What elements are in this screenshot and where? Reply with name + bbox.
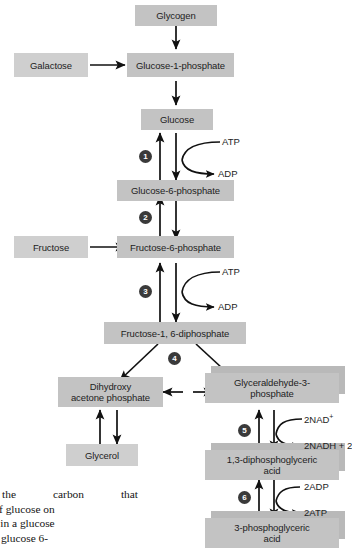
step-circle-2[interactable]: 2 bbox=[139, 211, 152, 224]
step-circle-3[interactable]: 3 bbox=[139, 285, 152, 298]
node-glucose-6-phosphate[interactable]: Glucose-6-phosphate bbox=[117, 180, 234, 201]
glycolysis-diagram: Glycogen Galactose Glucose-1-phosphate G… bbox=[0, 0, 352, 551]
cofactor-adp-2: ADP bbox=[218, 301, 238, 312]
node-fructose-1-6-diphosphate[interactable]: Fructose-1, 6-diphosphate bbox=[104, 322, 246, 344]
node-1-3-diphosphoglyceric-acid[interactable]: 1,3-diphosphoglyceric acid bbox=[205, 450, 339, 480]
caption-line-2: agram of glucose on bbox=[0, 502, 138, 517]
nad-superscript: + bbox=[329, 413, 333, 420]
cofactor-atp-1: ATP bbox=[222, 136, 240, 147]
cofactor-adp-3: 2ADP bbox=[304, 481, 329, 492]
cofactor-adp-1: ADP bbox=[218, 168, 238, 179]
node-fructose-6-phosphate[interactable]: Fructose-6-phosphate bbox=[117, 236, 234, 258]
caption-line-3: carbons in a glucose bbox=[0, 516, 138, 531]
cofactor-atp-3: 2ATP bbox=[304, 507, 327, 518]
step-circle-5[interactable]: 5 bbox=[238, 424, 251, 437]
node-galactose[interactable]: Galactose bbox=[14, 53, 88, 77]
node-dihydroxyacetone-phosphate[interactable]: Dihydroxy acetone phosphate bbox=[58, 377, 163, 407]
node-glyceraldehyde-3-phosphate[interactable]: Glyceraldehyde-3- phosphate bbox=[205, 373, 339, 403]
node-3-phosphoglyceric-acid[interactable]: 3-phosphoglyceric acid bbox=[205, 518, 339, 548]
node-glycogen[interactable]: Glycogen bbox=[135, 5, 217, 26]
nad-label: 2NAD bbox=[304, 414, 329, 425]
cofactor-atp-2: ATP bbox=[222, 266, 240, 277]
node-fructose[interactable]: Fructose bbox=[14, 236, 88, 258]
step-circle-6[interactable]: 6 bbox=[238, 491, 251, 504]
cofactor-nad-plus: 2NAD+ bbox=[304, 413, 333, 425]
caption-line-4: as such, glucose 6- bbox=[0, 531, 138, 546]
node-glycerol[interactable]: Glycerol bbox=[66, 444, 138, 466]
step-circle-4[interactable]: 4 bbox=[168, 352, 181, 365]
step-circle-1[interactable]: 1 bbox=[139, 150, 152, 163]
node-glucose[interactable]: Glucose bbox=[141, 109, 213, 130]
caption-text-block: t the carbon that agram of glucose on ca… bbox=[0, 487, 138, 545]
caption-paragraph: t the carbon that agram of glucose on ca… bbox=[0, 487, 138, 545]
cofactor-nadh: 2NADH + 2 bbox=[304, 440, 352, 451]
caption-line-1: t the carbon that bbox=[0, 487, 138, 502]
node-glucose-1-phosphate[interactable]: Glucose-1-phosphate bbox=[127, 53, 234, 77]
